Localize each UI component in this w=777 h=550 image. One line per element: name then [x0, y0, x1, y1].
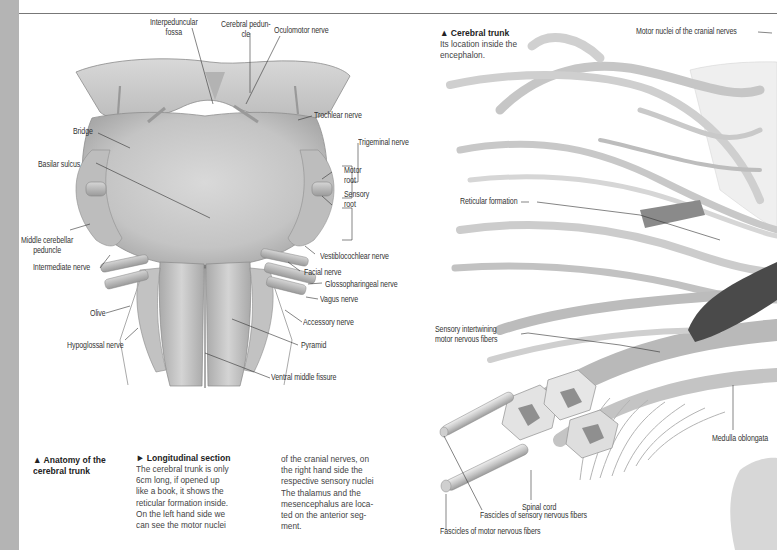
label-ventral-middle-fissure: Ventral middle fissure [271, 373, 336, 383]
label-cerebral-peduncle: Cerebral pedun- cle [221, 20, 271, 40]
label-intermediate-nerve: Intermediate nerve [33, 263, 90, 273]
label-sensory-intertwining: Sensory intertwining motor nervous fiber… [435, 325, 497, 345]
label-oculomotor-nerve: Oculomotor nerve [274, 26, 329, 36]
label-bridge: Bridge [73, 127, 93, 137]
label-glossopharyngeal-nerve: Glossopharingeal nerve [325, 280, 397, 290]
label-fascicles-motor: Fascicles of motor nervous fibers [440, 527, 540, 537]
label-pyramid: Pyramid [301, 341, 326, 351]
label-motor-root: Motor root [344, 166, 362, 186]
label-hypoglossal-nerve: Hypoglossal nerve [67, 341, 123, 351]
caption-longitudinal-col1: The cerebral trunk is only 6cm long, if … [136, 463, 229, 530]
label-middle-cerebellar-peduncle: Middle cerebellar peduncle [21, 236, 73, 256]
label-vestibulocochlear-nerve: Vestiblocochlear nerve [320, 252, 389, 262]
label-medulla-oblongata: Medulla oblongata [712, 434, 768, 444]
brainstem-illustration [0, 0, 777, 550]
label-interpeduncular-fossa: Interpeduncular fossa [150, 18, 198, 38]
label-sensory-root: Sensory root [344, 190, 369, 210]
caption-longitudinal-title: ► Longitudinal section [136, 452, 230, 463]
caption-cerebral-trunk-text: Its location inside the encephalon. [440, 38, 517, 60]
label-basilar-sulcus: Basilar sulcus [38, 160, 80, 170]
label-accessory-nerve: Accessory nerve [303, 318, 354, 328]
label-facial-nerve: Facial nerve [304, 268, 341, 278]
label-olive: Olive [90, 309, 106, 319]
caption-anatomy-title: ▲ Anatomy of the cerebral trunk [33, 454, 106, 476]
label-motor-nuclei: Motor nuclei of the cranial nerves [636, 27, 737, 37]
caption-longitudinal-col2: of the cranial nerves, on the right hand… [281, 453, 374, 531]
label-reticular-formation: Reticular formation [460, 197, 517, 207]
label-trochlear-nerve: Trochlear nerve [314, 111, 362, 121]
label-fascicles-sensory: Fascicles of sensory nervous fibers [480, 511, 587, 521]
caption-cerebral-trunk-title: ▲ Cerebral trunk [440, 27, 509, 38]
label-trigeminal-nerve: Trigeminal nerve [358, 138, 409, 148]
label-vagus-nerve: Vagus nerve [320, 295, 358, 305]
